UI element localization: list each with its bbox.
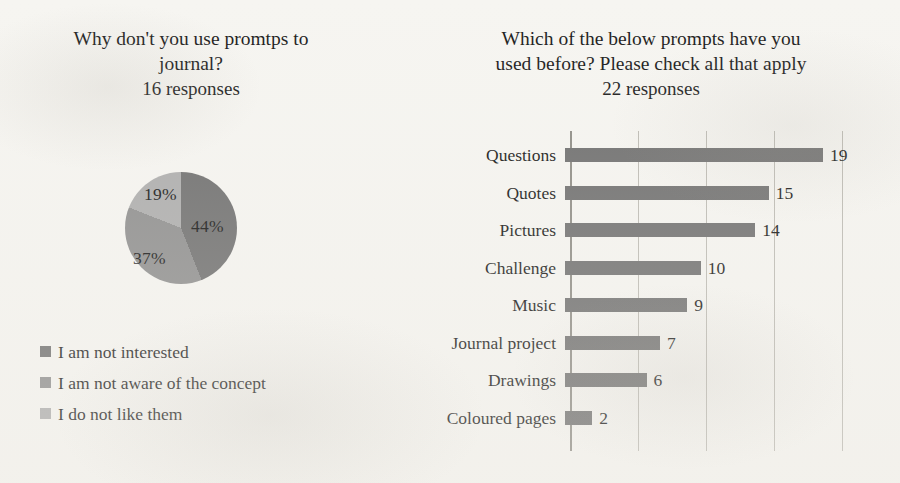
bar-value-label: 6 [654, 370, 663, 390]
bar-with-value: 14 [565, 210, 780, 250]
pie-responses-count: 16 responses [26, 76, 356, 101]
legend-item[interactable]: I am not aware of the concept [40, 367, 380, 398]
legend-swatch-do-not-like [40, 408, 51, 419]
pie-title-line-2: journal? [26, 51, 356, 76]
bar-value-label: 2 [599, 408, 608, 428]
pie-slice-label-3: 19% [144, 184, 177, 205]
bar-title-line-2: used before? Please check all that apply [416, 51, 886, 76]
bar-with-value: 15 [565, 173, 793, 213]
bar-with-value: 2 [565, 398, 608, 438]
bar-category-label: Pictures [410, 220, 565, 240]
bar-with-value: 9 [565, 285, 703, 325]
bar-category-label: Coloured pages [410, 408, 565, 428]
bar-with-value: 7 [565, 323, 676, 363]
bar-value-label: 10 [708, 258, 726, 278]
bar-title-line-1: Which of the below prompts have you [416, 26, 886, 51]
legend-item[interactable]: I am not interested [40, 336, 380, 367]
pie-chart-panel: Why don't you use promtps to journal? 16… [0, 0, 410, 483]
bar-category-label: Challenge [410, 258, 565, 278]
pie-slice-label-1: 44% [191, 216, 224, 237]
pie-slice-label-2: 37% [133, 248, 166, 269]
bar-chart-row[interactable]: Quotes15 [410, 173, 900, 213]
bar-value-label: 19 [830, 145, 848, 165]
bar-chart-row[interactable]: Drawings6 [410, 360, 900, 400]
bar-chart-row[interactable]: Questions19 [410, 135, 900, 175]
bar[interactable] [565, 261, 701, 275]
bar-responses-count: 22 responses [416, 76, 886, 101]
legend-swatch-not-aware [40, 377, 51, 388]
bar-category-label: Journal project [410, 333, 565, 353]
bar-chart-title: Which of the below prompts have you used… [416, 26, 886, 101]
bar-category-label: Questions [410, 145, 565, 165]
bar[interactable] [565, 186, 769, 200]
legend-swatch-not-interested [40, 346, 51, 357]
bar[interactable] [565, 223, 755, 237]
bar[interactable] [565, 373, 647, 387]
bar-chart-plot-area: Questions19Quotes15Pictures14Challenge10… [410, 131, 900, 451]
bar[interactable] [565, 411, 592, 425]
bar-value-label: 14 [762, 220, 780, 240]
bar[interactable] [565, 298, 687, 312]
bar-value-label: 9 [694, 295, 703, 315]
scanned-page: Why don't you use promtps to journal? 16… [0, 0, 900, 483]
pie-chart-title: Why don't you use promtps to journal? 16… [26, 26, 356, 101]
legend-item[interactable]: I do not like them [40, 398, 380, 429]
bar-value-label: 15 [776, 183, 794, 203]
bar[interactable] [565, 148, 823, 162]
bar-chart-row[interactable]: Music9 [410, 285, 900, 325]
pie-chart-legend: I am not interestedI am not aware of the… [40, 336, 380, 429]
pie-chart-graphic: 44% 37% 19% [125, 172, 237, 284]
bar-chart-row[interactable]: Challenge10 [410, 248, 900, 288]
bar-with-value: 10 [565, 248, 725, 288]
bar-chart-row[interactable]: Journal project7 [410, 323, 900, 363]
bar-with-value: 6 [565, 360, 662, 400]
bar-with-value: 19 [565, 135, 848, 175]
bar-value-label: 7 [667, 333, 676, 353]
legend-item-label: I do not like them [58, 404, 182, 424]
bar-category-label: Music [410, 295, 565, 315]
bar-chart-panel: Which of the below prompts have you used… [410, 0, 900, 483]
bar-category-label: Drawings [410, 370, 565, 390]
bar-chart-rows: Questions19Quotes15Pictures14Challenge10… [410, 131, 900, 451]
pie-title-line-1: Why don't you use promtps to [26, 26, 356, 51]
bar[interactable] [565, 336, 660, 350]
bar-chart-row[interactable]: Coloured pages2 [410, 398, 900, 438]
bar-category-label: Quotes [410, 183, 565, 203]
bar-chart-row[interactable]: Pictures14 [410, 210, 900, 250]
legend-item-label: I am not aware of the concept [58, 373, 266, 393]
legend-item-label: I am not interested [58, 342, 189, 362]
